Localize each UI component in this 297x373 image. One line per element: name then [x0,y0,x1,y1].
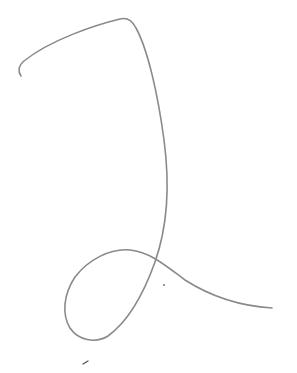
sketch-canvas [0,0,297,373]
background [0,0,297,373]
dot-mark [163,284,165,286]
